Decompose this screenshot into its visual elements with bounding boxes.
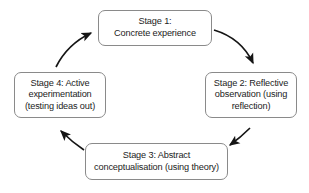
arrow-stage3-to-stage4 [61, 131, 84, 150]
arrow-stage1-to-stage2 [214, 30, 253, 63]
stage-4-node: Stage 4: Active experimentation (testing… [14, 72, 106, 118]
stage-3-label: Stage 3: Abstract conceptualisation (usi… [89, 150, 224, 173]
arrow-stage2-to-stage3 [230, 128, 250, 145]
stage-4-label: Stage 4: Active experimentation (testing… [18, 78, 102, 113]
stage-2-label: Stage 2: Reflective observation (using r… [209, 78, 293, 113]
stage-3-node: Stage 3: Abstract conceptualisation (usi… [85, 143, 228, 180]
cycle-diagram: Stage 1: Concrete experience Stage 2: Re… [0, 0, 309, 193]
stage-2-node: Stage 2: Reflective observation (using r… [205, 72, 297, 118]
arrow-stage4-to-stage1 [56, 33, 91, 67]
stage-1-label: Stage 1: Concrete experience [102, 16, 208, 39]
stage-1-node: Stage 1: Concrete experience [98, 10, 212, 46]
